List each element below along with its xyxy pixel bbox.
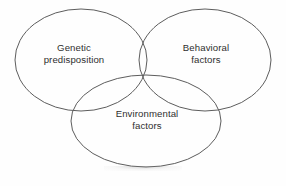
label-environmental-factors: Environmental factors (88, 108, 206, 133)
label-genetic-predisposition: Genetic predisposition (20, 42, 128, 67)
venn-diagram-canvas (0, 0, 286, 186)
label-behavioral-line-2: factors (152, 54, 260, 66)
label-behavioral-line-1: Behavioral (152, 42, 260, 54)
label-environmental-line-2: factors (88, 120, 206, 132)
label-genetic-line-2: predisposition (20, 54, 128, 66)
label-behavioral-factors: Behavioral factors (152, 42, 260, 67)
venn-diagram: Genetic predisposition Behavioral factor… (0, 0, 286, 186)
label-genetic-line-1: Genetic (20, 42, 128, 54)
label-environmental-line-1: Environmental (88, 108, 206, 120)
